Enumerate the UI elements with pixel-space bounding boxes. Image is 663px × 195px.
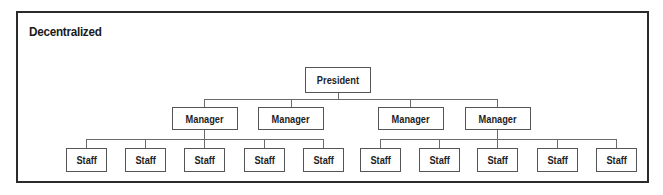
staff-label: Staff	[487, 154, 508, 166]
connector-line	[145, 139, 146, 148]
staff-label: Staff	[313, 154, 334, 166]
president-node: President	[305, 67, 371, 93]
staff-label: Staff	[135, 154, 156, 166]
connector-line	[86, 139, 324, 140]
connector-line	[380, 139, 617, 140]
connector-line	[204, 99, 498, 100]
connector-line	[204, 130, 205, 139]
connector-line	[439, 139, 440, 148]
connector-line	[557, 139, 558, 148]
staff-node: Staff	[303, 148, 344, 172]
staff-node: Staff	[66, 148, 107, 172]
connector-line	[204, 99, 205, 107]
manager-label: Manager	[392, 113, 430, 125]
staff-label: Staff	[254, 154, 275, 166]
manager-label: Manager	[272, 113, 310, 125]
staff-label: Staff	[76, 154, 97, 166]
staff-node: Staff	[419, 148, 460, 172]
manager-label: Manager	[186, 113, 224, 125]
staff-node: Staff	[477, 148, 518, 172]
diagram-title: Decentralized	[29, 24, 102, 39]
connector-line	[497, 139, 498, 148]
staff-node: Staff	[184, 148, 225, 172]
staff-label: Staff	[547, 154, 568, 166]
connector-line	[497, 99, 498, 107]
connector-line	[410, 99, 411, 107]
manager-node: Manager	[172, 107, 238, 130]
connector-line	[204, 139, 205, 148]
staff-label: Staff	[606, 154, 627, 166]
staff-node: Staff	[360, 148, 401, 172]
staff-label: Staff	[429, 154, 450, 166]
connector-line	[323, 139, 324, 148]
connector-line	[86, 139, 87, 148]
staff-node: Staff	[596, 148, 637, 172]
staff-node: Staff	[537, 148, 578, 172]
staff-label: Staff	[370, 154, 391, 166]
manager-node: Manager	[465, 107, 531, 130]
connector-line	[616, 139, 617, 148]
staff-node: Staff	[244, 148, 285, 172]
connector-line	[264, 139, 265, 148]
president-label: President	[317, 74, 359, 86]
connector-line	[291, 99, 292, 107]
staff-label: Staff	[194, 154, 215, 166]
manager-node: Manager	[378, 107, 444, 130]
connector-line	[380, 139, 381, 148]
connector-line	[497, 130, 498, 139]
staff-node: Staff	[125, 148, 166, 172]
manager-node: Manager	[258, 107, 324, 130]
manager-label: Manager	[479, 113, 517, 125]
